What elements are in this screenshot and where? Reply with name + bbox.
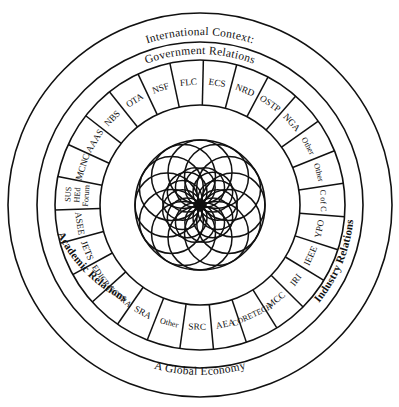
segment-flc[interactable]: FLC (180, 76, 198, 88)
segment-src[interactable]: SRC (188, 321, 206, 331)
segment-divider (202, 60, 203, 105)
diagram-root: ECSNRDOSTPNGAOtherOtherC of CYPOIEEEIRIM… (0, 0, 399, 407)
segment-label-sus-hed-forum-line3: Forum (81, 184, 92, 207)
segment-label-src: SRC (188, 321, 206, 331)
segment-label-c-of-c: C of C (318, 190, 328, 213)
segment-label-flc: FLC (180, 76, 198, 88)
concentric-relations-wheel: ECSNRDOSTPNGAOtherOtherC of CYPOIEEEIRIM… (0, 0, 399, 407)
segment-c-of-c[interactable]: C of C (318, 190, 328, 213)
